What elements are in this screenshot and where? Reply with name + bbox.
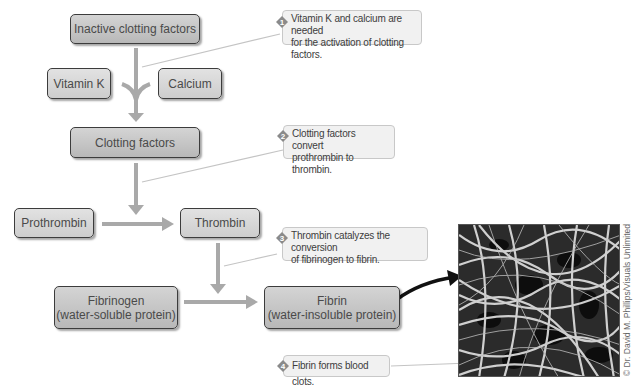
box-label: Vitamin K <box>53 77 104 91</box>
note-text: Thrombin catalyzes the conversion <box>291 230 422 254</box>
note-text: Fibrin forms blood clots. <box>292 358 384 386</box>
box-label: Inactive clotting factors <box>74 22 196 36</box>
box-thrombin: Thrombin <box>180 208 260 238</box>
box-subtitle: (water-insoluble protein) <box>268 308 397 322</box>
box-label: Thrombin <box>195 216 246 230</box>
svg-text:2: 2 <box>281 132 286 141</box>
box-label: Calcium <box>168 77 211 91</box>
box-title: Fibrin <box>317 294 347 308</box>
note-step-1: Vitamin K and calcium are needed for the… <box>282 10 422 45</box>
step-3-badge-icon: 3 <box>276 232 288 244</box>
box-label: Prothrombin <box>21 216 86 230</box>
box-prothrombin: Prothrombin <box>14 208 94 238</box>
note-text: Clotting factors convert <box>292 128 389 152</box>
note-step-3: Thrombin catalyzes the conversion of fib… <box>282 227 428 261</box>
box-fibrinogen: Fibrinogen (water-soluble protein) <box>54 286 178 329</box>
svg-text:3: 3 <box>280 234 285 243</box>
box-calcium: Calcium <box>158 68 222 99</box>
note-text: Vitamin K and calcium are needed <box>291 13 416 37</box>
note-step-4: Fibrin forms blood clots. <box>283 355 390 377</box>
box-label: Clotting factors <box>95 136 175 150</box>
step-4-badge-icon: 4 <box>277 360 289 372</box>
note-text: prothrombin to thrombin. <box>292 152 389 176</box>
box-subtitle: (water-soluble protein) <box>56 308 175 322</box>
step-2-badge-icon: 2 <box>277 130 289 142</box>
note-text: of fibrinogen to fibrin. <box>291 254 422 266</box>
svg-text:4: 4 <box>281 362 286 371</box>
note-text: for the activation of clotting factors. <box>291 37 416 61</box>
box-title: Fibrinogen <box>88 294 145 308</box>
merge-vitamin-k <box>122 84 136 100</box>
box-vitamin-k: Vitamin K <box>47 68 111 99</box>
step-1-badge-icon: 1 <box>276 16 288 28</box>
arrow-fibrin-to-photo <box>396 277 455 300</box>
box-inactive-clotting-factors: Inactive clotting factors <box>70 14 200 44</box>
fibrin-micrograph-image <box>458 224 620 377</box>
note-step-2: Clotting factors convert prothrombin to … <box>283 125 395 159</box>
photo-credit: © Dr. David M. Phillips/Visuals Unlimite… <box>622 224 632 376</box>
box-clotting-factors: Clotting factors <box>70 127 200 158</box>
fibrin-mesh-illustration <box>459 225 620 377</box>
merge-calcium <box>136 84 150 100</box>
box-fibrin: Fibrin (water-insoluble protein) <box>264 286 400 329</box>
svg-text:1: 1 <box>280 18 285 27</box>
